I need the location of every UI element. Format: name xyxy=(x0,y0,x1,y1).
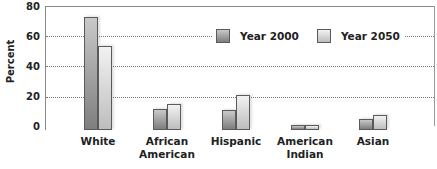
bar-white-year-2050 xyxy=(98,46,112,130)
plot-border-top xyxy=(45,6,434,7)
bar-white-year-2000 xyxy=(84,17,98,130)
y-tick-20: 20 xyxy=(18,91,40,103)
category-label: Hispanic xyxy=(196,135,276,148)
bar-chart: Percent 80 60 40 20 0 Year 2000 Year 205… xyxy=(0,0,437,169)
category-label: Asian xyxy=(333,135,413,148)
y-axis-label: Percent xyxy=(5,40,16,84)
category-label-line2: American xyxy=(127,148,207,161)
legend: Year 2000 Year 2050 xyxy=(212,26,404,46)
x-category-hispanic: Hispanic xyxy=(196,135,276,148)
bar-american-indian-year-2050 xyxy=(305,125,319,130)
y-tick-60: 60 xyxy=(18,31,40,43)
legend-item-year-2000: Year 2000 xyxy=(216,29,299,43)
y-tick-80: 80 xyxy=(18,1,40,13)
category-label: White xyxy=(58,135,138,148)
category-label-line2: Indian xyxy=(265,148,345,161)
bar-african-american-year-2050 xyxy=(167,104,181,130)
x-category-asian: Asian xyxy=(333,135,413,148)
y-tick-0: 0 xyxy=(18,121,40,133)
bar-african-american-year-2000 xyxy=(153,109,167,130)
bar-american-indian-year-2000 xyxy=(291,125,305,130)
plot-border-right xyxy=(434,6,435,126)
bar-hispanic-year-2000 xyxy=(222,110,236,130)
y-tick-40: 40 xyxy=(18,61,40,73)
legend-swatch-year-2000 xyxy=(216,29,230,43)
legend-label: Year 2050 xyxy=(341,30,400,42)
y-axis-line xyxy=(45,6,46,130)
x-category-white: White xyxy=(58,135,138,148)
x-category-african-american: African American xyxy=(127,135,207,161)
legend-label: Year 2000 xyxy=(240,30,299,42)
bar-asian-year-2000 xyxy=(359,119,373,130)
bar-hispanic-year-2050 xyxy=(236,95,250,130)
legend-swatch-year-2050 xyxy=(317,29,331,43)
category-label-line1: African xyxy=(127,135,207,148)
legend-item-year-2050: Year 2050 xyxy=(317,29,400,43)
bar-asian-year-2050 xyxy=(373,115,387,130)
